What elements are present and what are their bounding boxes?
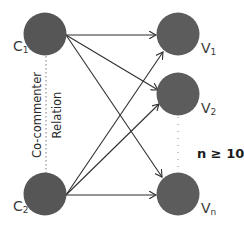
label-v2: V2 [201, 100, 216, 117]
edge-c1-vn [66, 35, 162, 177]
commenter-node-c2 [24, 173, 67, 216]
bipartite-diagram: C1 C2 V1 V2 Vn Co-commenter Relation n ≥… [0, 0, 244, 227]
edges [66, 35, 163, 195]
relation-label-line1: Co-commenter [30, 72, 44, 158]
label-vn: Vn [201, 200, 216, 217]
video-node-v1 [157, 13, 200, 56]
video-node-vn [157, 173, 200, 216]
video-node-v2 [157, 73, 200, 116]
edge-c2-v2 [66, 104, 159, 195]
relation-label-line2: Relation [50, 92, 64, 139]
commenter-node-c1 [24, 13, 67, 56]
constraint-label: n ≥ 10 [197, 146, 244, 161]
label-v1: V1 [201, 40, 216, 57]
edge-c2-v1 [66, 52, 163, 195]
edge-c1-v2 [66, 35, 158, 90]
